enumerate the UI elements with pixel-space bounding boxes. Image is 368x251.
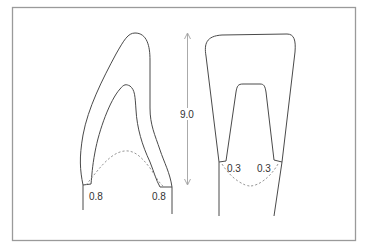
left-tooth-margin-left-label: 0.8 xyxy=(89,191,103,202)
left-tooth-margin-right-label: 0.8 xyxy=(152,191,166,202)
right-tooth-margin-right-label: 0.3 xyxy=(257,163,271,174)
diagram-frame xyxy=(13,8,356,241)
height-dimension-label: 9.0 xyxy=(180,109,194,120)
right-tooth-margin-left-label: 0.3 xyxy=(227,163,241,174)
tooth-preparation-diagram: 0.8 0.8 9.0 0.3 0.3 xyxy=(0,0,368,251)
